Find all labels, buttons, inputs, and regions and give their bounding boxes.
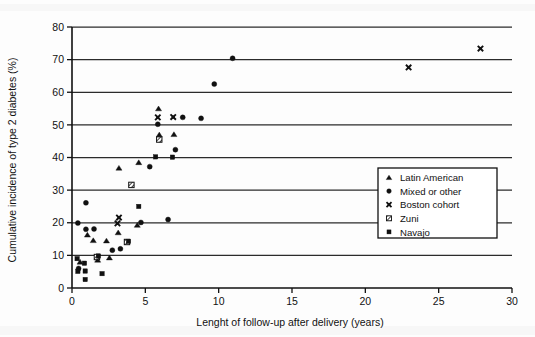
point-4-7	[126, 239, 130, 243]
point-4-4	[83, 277, 87, 281]
y-tick-label-40: 40	[52, 151, 64, 163]
point-1-8	[147, 164, 152, 169]
point-1-12	[180, 115, 185, 120]
figure-canvas: 01020304050607080051015202530 Cumulative…	[0, 0, 535, 337]
y-tick-label-70: 70	[52, 53, 64, 65]
point-1-15	[230, 56, 235, 61]
point-1-0	[75, 221, 80, 226]
legend-marker-circle-icon	[387, 189, 392, 194]
point-0-2	[90, 238, 96, 243]
y-tick-label-30: 30	[52, 184, 64, 196]
y-axis-label: Cumulative incidence of type 2 diabetes …	[6, 58, 18, 263]
point-1-9	[155, 122, 160, 127]
point-4-10	[170, 155, 174, 159]
legend[interactable]: Latin AmericanMixed or otherBoston cohor…	[378, 168, 497, 238]
point-1-3	[83, 227, 88, 232]
point-0-1	[84, 232, 90, 237]
scatter-chart: 01020304050607080051015202530 Cumulative…	[0, 0, 535, 337]
point-1-5	[110, 248, 115, 253]
y-tick-label-0: 0	[58, 282, 64, 294]
point-2-3	[171, 114, 176, 119]
point-4-0	[75, 256, 79, 260]
legend-label: Navajo	[400, 227, 430, 238]
point-1-7	[138, 220, 143, 225]
point-1-14	[212, 82, 217, 87]
legend-label: Mixed or other	[400, 186, 462, 197]
point-0-9	[136, 160, 142, 165]
point-2-1	[116, 215, 121, 220]
point-2-2	[155, 115, 160, 120]
y-tick-label-50: 50	[52, 119, 64, 131]
x-axis-label: Lenght of follow-up after delivery (year…	[196, 316, 383, 328]
point-1-13	[199, 116, 204, 121]
point-0-10	[155, 106, 161, 111]
x-tick-label-5: 5	[142, 295, 148, 307]
legend-marker-small-square-icon	[387, 230, 391, 234]
point-1-6	[118, 246, 123, 251]
y-tick-label-10: 10	[52, 249, 64, 261]
legend-label: Zuni	[400, 213, 419, 224]
point-0-11	[156, 132, 162, 137]
x-tick-label-25: 25	[433, 295, 445, 307]
legend-label: Latin American	[400, 172, 463, 183]
axis-ticks: 01020304050607080051015202530	[52, 21, 518, 307]
point-0-12	[171, 132, 177, 137]
x-tick-label-0: 0	[69, 295, 75, 307]
point-1-2	[83, 200, 88, 205]
point-1-10	[166, 217, 171, 222]
point-4-8	[137, 204, 141, 208]
point-4-9	[153, 155, 157, 159]
point-2-4	[406, 65, 411, 70]
legend-marker-square-hatched-icon	[387, 216, 392, 221]
x-tick-label-15: 15	[286, 295, 298, 307]
point-1-11	[173, 147, 178, 152]
point-0-4	[103, 238, 109, 243]
point-0-7	[116, 165, 122, 170]
data-points	[75, 46, 483, 282]
legend-label: Boston cohort	[400, 199, 460, 210]
series-mixed-or-other	[75, 56, 235, 271]
y-tick-label-80: 80	[52, 21, 64, 33]
point-4-3	[83, 269, 87, 273]
x-tick-label-10: 10	[213, 295, 225, 307]
point-2-5	[478, 46, 483, 51]
series-navajo	[75, 155, 175, 282]
point-2-0	[115, 221, 120, 226]
y-tick-label-20: 20	[52, 216, 64, 228]
x-tick-label-30: 30	[506, 295, 518, 307]
point-1-4	[92, 226, 97, 231]
point-4-6	[100, 271, 104, 275]
x-tick-label-20: 20	[359, 295, 371, 307]
point-4-1	[76, 269, 80, 273]
y-tick-label-60: 60	[52, 86, 64, 98]
point-4-2	[82, 261, 86, 265]
point-3-2	[129, 182, 134, 187]
point-3-3	[157, 137, 162, 142]
point-4-5	[96, 254, 100, 258]
point-0-6	[115, 230, 121, 235]
